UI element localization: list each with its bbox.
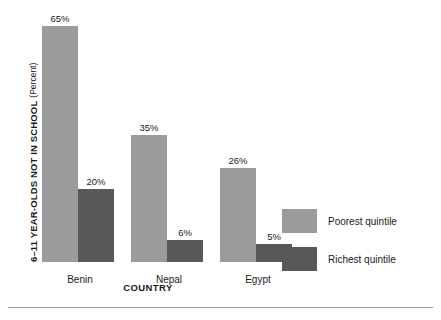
bar-value-benin-richest: 20% xyxy=(86,176,105,187)
bar-value-benin-poorest: 65% xyxy=(50,13,69,24)
y-axis-title-unit: (Percent) xyxy=(28,63,38,98)
y-axis-title-main: 6–11 YEAR-OLDS NOT IN SCHOOL xyxy=(28,101,39,262)
bar-group-benin: 65% 20% xyxy=(42,8,114,262)
bottom-divider xyxy=(8,307,433,308)
legend-swatch-richest-icon xyxy=(282,247,317,271)
plot-area: 65% 20% 35% 6% 26% 5% Benin Nepal Egypt xyxy=(38,8,298,262)
legend-swatch-poorest-icon xyxy=(282,209,317,233)
bar-value-egypt-richest: 5% xyxy=(267,231,281,242)
legend-item-poorest: Poorest quintile xyxy=(282,208,397,234)
bar-value-egypt-poorest: 26% xyxy=(228,155,247,166)
bar-benin-richest: 20% xyxy=(78,189,114,262)
legend-label-poorest: Poorest quintile xyxy=(328,216,397,227)
x-axis-title: COUNTRY xyxy=(38,282,258,293)
bar-nepal-poorest: 35% xyxy=(131,135,167,262)
legend-item-richest: Richest quintile xyxy=(282,246,397,272)
bar-value-nepal-poorest: 35% xyxy=(139,122,158,133)
bar-group-nepal: 35% 6% xyxy=(131,8,203,262)
bar-value-nepal-richest: 6% xyxy=(178,227,192,238)
bar-nepal-richest: 6% xyxy=(167,240,203,262)
chart-legend: Poorest quintile Richest quintile xyxy=(282,208,397,284)
bar-chart-figure: 6–11 YEAR-OLDS NOT IN SCHOOL (Percent) 6… xyxy=(0,0,441,320)
bar-benin-poorest: 65% xyxy=(42,26,78,262)
legend-label-richest: Richest quintile xyxy=(328,254,396,265)
bar-egypt-poorest: 26% xyxy=(220,168,256,262)
